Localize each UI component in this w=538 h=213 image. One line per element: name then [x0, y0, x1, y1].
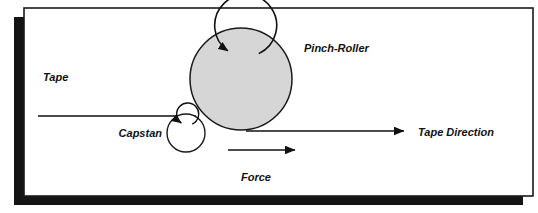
force-label: Force [241, 171, 271, 183]
pinch-roller-label: Pinch-Roller [304, 42, 370, 54]
tape-label: Tape [43, 71, 68, 83]
tape-transport-diagram: Tape Capstan Pinch-Roller Force Tape Dir… [0, 0, 538, 213]
diagram-canvas: Tape Capstan Pinch-Roller Force Tape Dir… [0, 0, 538, 213]
capstan-label: Capstan [119, 127, 163, 139]
tape-direction-label: Tape Direction [418, 126, 494, 138]
